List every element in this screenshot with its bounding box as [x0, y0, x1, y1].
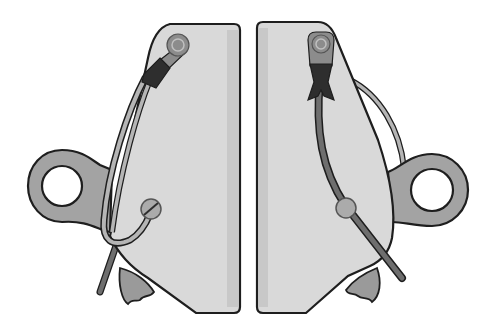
- right-plate-edge-shade: [259, 28, 268, 307]
- left-half: [28, 24, 240, 313]
- left-slotted-pin: [141, 199, 161, 219]
- right-half: [257, 22, 468, 313]
- figure: [0, 0, 497, 334]
- left-plate: [110, 24, 240, 313]
- right-pivot-rivet: [312, 35, 330, 53]
- left-pivot-rivet: [167, 34, 189, 56]
- right-attachment-eye: [388, 154, 468, 226]
- right-round-pin: [336, 198, 356, 218]
- rope-grab-illustration: [0, 0, 497, 334]
- left-eye-hole: [42, 166, 82, 206]
- right-eye-hole: [411, 169, 453, 211]
- left-plate-edge-shade: [227, 30, 238, 307]
- left-attachment-eye: [28, 150, 112, 232]
- right-pivot-assembly: [308, 32, 334, 100]
